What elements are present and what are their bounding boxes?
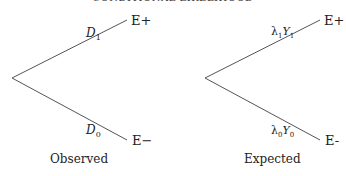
- expected-upper-branch: [205, 20, 320, 78]
- expected-upper-leaf: E+: [324, 13, 344, 28]
- observed-upper-branch: [12, 20, 127, 78]
- observed-lower-branch-label: D0: [85, 123, 101, 139]
- expected-lower-branch-label: λ0Y0: [271, 124, 294, 139]
- observed-lower-branch: [12, 78, 127, 140]
- observed-upper-leaf: E+: [131, 13, 151, 28]
- observed-upper-branch-label: D1: [85, 26, 101, 42]
- expected-caption: Expected: [244, 152, 301, 166]
- expected-lower-leaf: E-: [325, 133, 339, 148]
- observed-lower-leaf: E−: [132, 133, 152, 148]
- expected-upper-branch-label: λ1Y1: [271, 25, 294, 40]
- expected-tree: E+ E- λ1Y1 λ0Y0 Expected: [205, 13, 344, 166]
- observed-caption: Observed: [50, 152, 108, 166]
- tree-diagram-svg: E+ E− D1 D0 Observed E+ E- λ1Y1 λ0Y0 Exp…: [0, 0, 346, 176]
- observed-tree: E+ E− D1 D0 Observed: [12, 13, 152, 166]
- diagram: CONDITIONAL LIKELIHOOD E+ E− D1 D0 Obser…: [0, 0, 346, 176]
- expected-lower-branch: [205, 78, 320, 140]
